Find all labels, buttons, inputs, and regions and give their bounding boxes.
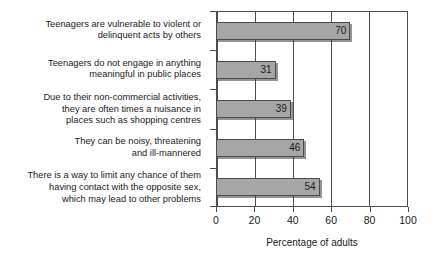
bar-value-label: 54 — [305, 182, 319, 192]
bar-row: 54 — [216, 168, 408, 207]
y-axis-labels: Teenagers are vulnerable to violent orde… — [0, 11, 210, 207]
bar-value-label: 70 — [335, 26, 349, 36]
bar: 70 — [216, 22, 350, 40]
bar-row: 46 — [216, 129, 408, 168]
bar-chart: Teenagers are vulnerable to violent orde… — [0, 0, 440, 267]
y-axis-label: Teenagers do not engage in anythingmeani… — [0, 58, 201, 81]
x-tick-label: 20 — [249, 214, 261, 226]
bar-value-label: 39 — [276, 104, 290, 114]
x-tick-label: 100 — [399, 214, 417, 226]
bar-row: 70 — [216, 11, 408, 50]
bar-row: 39 — [216, 89, 408, 128]
x-axis-title: Percentage of adults — [216, 237, 408, 248]
y-axis-label: Teenagers are vulnerable to violent orde… — [0, 19, 201, 42]
bars-layer: 7031394654 — [216, 11, 408, 207]
x-tick — [370, 207, 371, 212]
x-tick — [216, 207, 217, 212]
x-tick — [293, 207, 294, 212]
y-axis-label: They can be noisy, threateningand ill-ma… — [0, 137, 201, 160]
y-axis-label: There is a way to limit any chance of th… — [0, 170, 201, 205]
bar-value-label: 46 — [289, 143, 303, 153]
bar-row: 31 — [216, 50, 408, 89]
x-tick-label: 80 — [364, 214, 376, 226]
bar: 31 — [216, 61, 276, 79]
bar: 54 — [216, 178, 320, 196]
x-tick — [408, 207, 409, 212]
x-tick-label: 60 — [325, 214, 337, 226]
x-tick — [331, 207, 332, 212]
x-tick-label: 40 — [287, 214, 299, 226]
bar-value-label: 31 — [260, 65, 274, 75]
y-axis-label: Due to their non-commercial activities,t… — [0, 92, 201, 127]
bar: 46 — [216, 139, 304, 157]
x-tick-label: 0 — [213, 214, 219, 226]
bar: 39 — [216, 100, 291, 118]
x-tick — [254, 207, 255, 212]
